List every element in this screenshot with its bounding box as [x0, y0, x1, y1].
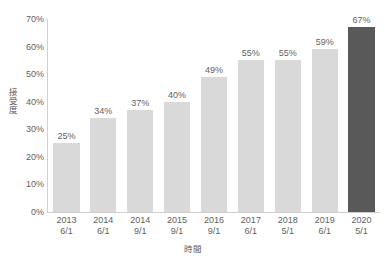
x-axis-tick-label: 20159/1 — [159, 215, 196, 237]
x-axis-tick-label-date: 9/1 — [196, 226, 233, 237]
bar-value-label: 37% — [122, 98, 159, 108]
y-axis-tick-label: 40% — [14, 97, 44, 106]
y-axis-tick-label: 60% — [14, 42, 44, 51]
bar-group: 37% — [122, 19, 159, 212]
bar[interactable] — [201, 77, 227, 212]
x-axis-tick-label-date: 5/1 — [343, 226, 380, 237]
bar[interactable] — [53, 143, 79, 212]
x-axis-tick-label-date: 6/1 — [85, 226, 122, 237]
x-axis-tick-label-year: 2015 — [159, 215, 196, 226]
bar-value-label: 34% — [85, 106, 122, 116]
bar[interactable] — [275, 60, 301, 212]
y-axis-tick-label: 10% — [14, 180, 44, 189]
x-axis-line — [47, 212, 380, 213]
x-axis-tick-label-date: 6/1 — [48, 226, 85, 237]
x-axis-tick-label-date: 6/1 — [306, 226, 343, 237]
plot-area: 25%34%37%40%49%55%55%59%67% — [48, 19, 380, 212]
y-axis-tick-label: 70% — [14, 15, 44, 24]
bar-value-label: 55% — [269, 48, 306, 58]
y-axis-tick-label: 50% — [14, 70, 44, 79]
bar-group: 49% — [196, 19, 233, 212]
bar-group: 34% — [85, 19, 122, 212]
bar-value-label: 25% — [48, 131, 85, 141]
x-axis-tick-label-year: 2019 — [306, 215, 343, 226]
x-axis-tick-label: 20169/1 — [196, 215, 233, 237]
x-axis-tick-label-year: 2016 — [196, 215, 233, 226]
bar-group: 40% — [159, 19, 196, 212]
x-axis-tick-label-year: 2017 — [232, 215, 269, 226]
y-axis-tick-label: 20% — [14, 152, 44, 161]
x-axis-tick-label: 20185/1 — [269, 215, 306, 237]
x-axis-tick-label: 20136/1 — [48, 215, 85, 237]
y-axis-tick-labels: 0%10%20%30%40%50%60%70% — [14, 0, 44, 265]
x-axis-title: 時間 — [0, 244, 385, 254]
x-axis-tick-label: 20149/1 — [122, 215, 159, 237]
bar[interactable] — [90, 118, 116, 212]
bar-group: 55% — [232, 19, 269, 212]
bar-group: 67% — [343, 19, 380, 212]
bar-value-label: 55% — [232, 48, 269, 58]
x-axis-tick-label-year: 2014 — [122, 215, 159, 226]
x-axis-tick-label-year: 2014 — [85, 215, 122, 226]
bar-group: 25% — [48, 19, 85, 212]
bar-chart: 接受度 0%10%20%30%40%50%60%70% 25%34%37%40%… — [0, 0, 385, 265]
x-axis-tick-label: 20205/1 — [343, 215, 380, 237]
bar-group: 59% — [306, 19, 343, 212]
x-axis-tick-label-date: 9/1 — [122, 226, 159, 237]
bar-value-label: 59% — [306, 37, 343, 47]
x-axis-tick-label: 20196/1 — [306, 215, 343, 237]
x-axis-tick-label-year: 2020 — [343, 215, 380, 226]
x-axis-tick-label-year: 2018 — [269, 215, 306, 226]
bar[interactable] — [164, 102, 190, 212]
x-axis-tick-label-year: 2013 — [48, 215, 85, 226]
bar[interactable] — [348, 27, 374, 212]
x-axis-tick-labels: 20136/120146/120149/120159/120169/120176… — [48, 215, 380, 243]
x-axis-tick-label-date: 9/1 — [159, 226, 196, 237]
bar-value-label: 49% — [196, 65, 233, 75]
x-axis-tick-label: 20176/1 — [232, 215, 269, 237]
bar-group: 55% — [269, 19, 306, 212]
x-axis-tick-label-date: 5/1 — [269, 226, 306, 237]
bar[interactable] — [312, 49, 338, 212]
bar[interactable] — [127, 110, 153, 212]
bar-value-label: 67% — [343, 15, 380, 25]
bar[interactable] — [238, 60, 264, 212]
y-axis-tick-label: 30% — [14, 125, 44, 134]
y-axis-tick-label: 0% — [14, 208, 44, 217]
bar-value-label: 40% — [159, 90, 196, 100]
x-axis-tick-label: 20146/1 — [85, 215, 122, 237]
x-axis-tick-label-date: 6/1 — [232, 226, 269, 237]
